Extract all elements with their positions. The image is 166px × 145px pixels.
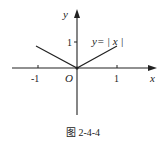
function-graph-figure: y x O -1 1 1 y= | x | 图 2-4-4 bbox=[0, 0, 166, 145]
y-axis-label: y bbox=[62, 8, 68, 20]
y-axis-arrow-icon bbox=[74, 9, 80, 18]
origin-point bbox=[75, 66, 78, 69]
figure-caption: 图 2-4-4 bbox=[0, 124, 166, 139]
x-axis-label: x bbox=[149, 72, 155, 84]
y-tick-label-1: 1 bbox=[67, 37, 72, 48]
origin-label: O bbox=[65, 72, 73, 84]
x-tick-label-1: 1 bbox=[114, 73, 119, 84]
function-label: y= | x | bbox=[91, 35, 124, 47]
x-tick-label-neg1: -1 bbox=[31, 73, 39, 84]
x-axis-arrow-icon bbox=[148, 65, 157, 71]
